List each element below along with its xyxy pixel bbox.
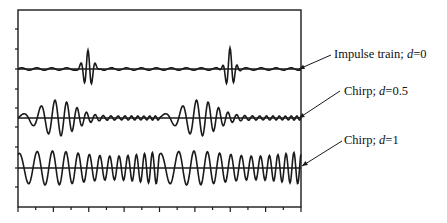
annotation-chirp-d1: Chirp; d=1: [344, 133, 399, 148]
annotation-impulse-train: Impulse train; d=0: [334, 47, 426, 62]
plot-frame: [18, 10, 301, 207]
label-value: =1: [385, 133, 398, 147]
annotation-arrows: [299, 55, 342, 166]
waveform-chart: [0, 0, 447, 223]
annotation-chirp-d05: Chirp; d=0.5: [344, 84, 408, 99]
label-value: =0.5: [385, 84, 408, 98]
label-text: Chirp;: [344, 84, 379, 98]
label-text: Chirp;: [344, 133, 379, 147]
label-text: Impulse train;: [334, 47, 407, 61]
label-value: =0: [413, 47, 426, 61]
